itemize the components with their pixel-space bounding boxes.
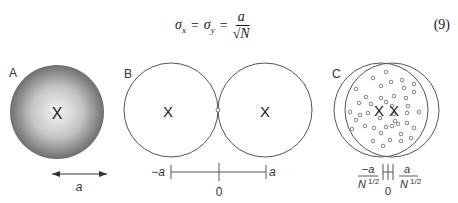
figure: A X a B X X −a 0 a C	[0, 0, 458, 203]
scale-label: a	[76, 180, 83, 194]
axis-right-label: a	[269, 165, 276, 179]
panel-a: A X a	[9, 65, 107, 194]
axis-center-label: 0	[385, 185, 391, 197]
left-mark: X	[163, 103, 173, 120]
panel-b-label: B	[124, 67, 132, 81]
mark-1: X	[374, 102, 384, 119]
axis-left-denominator: N	[358, 178, 366, 190]
tangent-point	[216, 108, 220, 112]
axis-right-numerator: a	[404, 163, 410, 175]
sample-points	[348, 70, 421, 148]
axis-left-exponent: 1/2	[368, 177, 380, 186]
panel-b: B X X −a 0 a	[124, 63, 312, 199]
panel-c: C	[332, 63, 439, 197]
center-mark: X	[52, 105, 63, 122]
axis-left-label: −a	[151, 165, 165, 179]
axis-center-label: 0	[216, 185, 223, 199]
axis-left-numerator: −a	[362, 163, 375, 175]
mark-2: X	[389, 102, 399, 119]
axis-right-denominator: N	[400, 178, 408, 190]
axis-right-exponent: 1/2	[410, 177, 422, 186]
right-mark: X	[260, 103, 270, 120]
panel-a-label: A	[9, 66, 17, 80]
panel-c-label: C	[332, 67, 341, 81]
